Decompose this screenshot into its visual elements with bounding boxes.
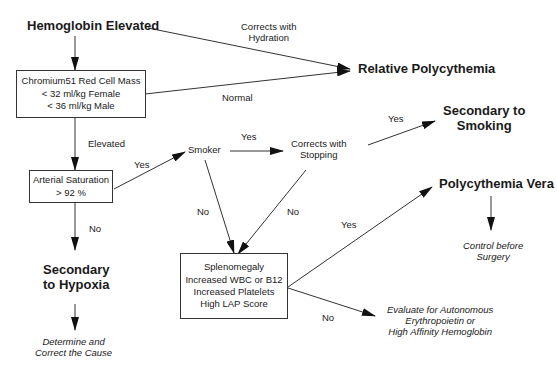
- label-no-hypoxia: No: [89, 224, 101, 235]
- label-normal: Normal: [222, 93, 253, 104]
- node-splenomegaly: Splenomegaly Increased WBC or B12 Increa…: [180, 253, 288, 319]
- label-no-stopping: No: [287, 207, 299, 218]
- node-arterial-saturation: Arterial Saturation > 92 %: [29, 170, 113, 203]
- label-yes-smoker: Yes: [134, 160, 150, 171]
- node-hemoglobin-elevated: Hemoglobin Elevated: [27, 19, 159, 34]
- node-secondary-to-smoking: Secondary to Smoking: [443, 104, 525, 134]
- node-evaluate-autonomous: Evaluate for Autonomous Erythropoietin o…: [387, 305, 493, 338]
- node-corrects-with-stopping: Corrects with Stopping: [291, 139, 346, 161]
- node-smoker: Smoker: [188, 145, 221, 156]
- node-determine-cause: Determine and Correct the Cause: [35, 337, 112, 359]
- edge-redcellmass-to-relative: [145, 71, 350, 94]
- label-corrects-with-hydration: Corrects with Hydration: [241, 22, 296, 44]
- label-no-smoker: No: [197, 207, 209, 218]
- label-yes-stopping: Yes: [241, 132, 257, 143]
- label-yes-smoking: Yes: [388, 114, 404, 125]
- edge-arterial-to-smoker: [114, 152, 185, 189]
- node-relative-polycythemia: Relative Polycythemia: [358, 62, 495, 77]
- edge-smoker-to-splenomegaly: [205, 160, 234, 253]
- label-yes-vera: Yes: [341, 220, 357, 231]
- label-elevated: Elevated: [88, 139, 125, 150]
- node-polycythemia-vera: Polycythemia Vera: [439, 177, 554, 192]
- node-control-before-surgery: Control before Surgery: [463, 241, 523, 263]
- node-secondary-to-hypoxia: Secondary to Hypoxia: [43, 263, 109, 293]
- node-red-cell-mass: Chromium51 Red Cell Mass < 32 ml/kg Fema…: [16, 70, 146, 118]
- label-no-evaluate: No: [322, 313, 334, 324]
- edge-splenomegaly-to-vera: [288, 187, 432, 287]
